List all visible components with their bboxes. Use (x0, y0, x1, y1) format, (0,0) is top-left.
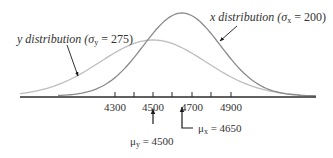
mu-y-value: = 4500 (140, 135, 174, 147)
x-distribution-curve (58, 13, 316, 96)
y-distribution-arrow (67, 45, 78, 76)
mu-y-label: μy = 4500 (130, 136, 174, 149)
y-dist-text: y distribution (σ (17, 32, 94, 46)
tick-label-4700: 4700 (181, 102, 203, 113)
mu-x-value: = 4650 (208, 122, 242, 134)
mu-x-label: μx = 4650 (198, 123, 242, 136)
y-distribution-curve (20, 40, 300, 95)
tick-label-4300: 4300 (104, 102, 126, 113)
y-distribution-label: y distribution (σy = 275) (17, 33, 133, 47)
x-dist-value: = 200) (291, 10, 326, 24)
x-distribution-arrow (220, 26, 237, 41)
tick-label-4500: 4500 (142, 102, 164, 113)
x-dist-text: x distribution (σ (210, 10, 287, 24)
y-dist-value: = 275) (98, 32, 133, 46)
tick-label-4900: 4900 (220, 102, 242, 113)
x-distribution-label: x distribution (σx = 200) (210, 11, 326, 25)
